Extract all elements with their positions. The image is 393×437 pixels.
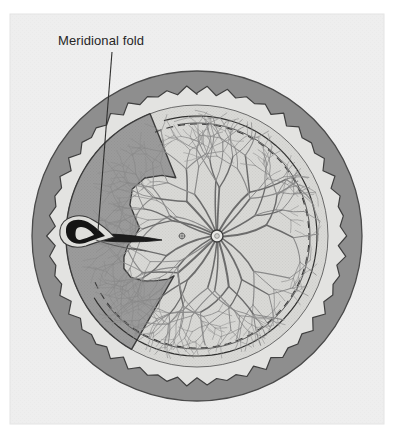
figure-root: Meridional fold — [0, 0, 393, 437]
vessel-segment — [186, 169, 187, 201]
optic-disc — [211, 230, 223, 242]
meridional-fold-illustration: Meridional fold — [0, 0, 393, 437]
label-meridional-fold: Meridional fold — [58, 33, 144, 48]
